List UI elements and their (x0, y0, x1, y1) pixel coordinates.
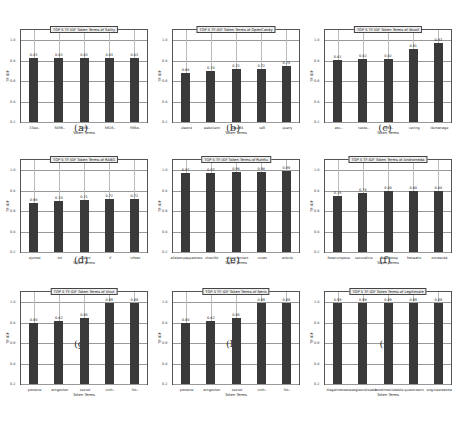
chart-title: TOP 5 TF-IDF Token Terms of Virut (51, 288, 118, 295)
bar (384, 303, 393, 384)
bar (130, 199, 139, 252)
x-axis-label: Token Terms (377, 393, 399, 397)
y-tick-label: 1.0 (10, 38, 15, 42)
bar-value-label: 0.82 (384, 54, 392, 58)
y-tick-label: 1.0 (162, 168, 167, 172)
bar-value-label: 0.72 (105, 194, 113, 198)
panel-caption: (f) (310, 254, 460, 265)
y-tick-label: 0.8 (314, 59, 319, 63)
bar (384, 59, 393, 122)
bar (29, 203, 38, 252)
bar (130, 303, 139, 384)
panel-caption: (c) (310, 122, 460, 133)
chart-grid: TOP 5 TF-IDF Token Terms of Sality0.20.4… (0, 0, 465, 421)
y-tick-label: 1.0 (314, 38, 319, 42)
panel-caption: (a) (6, 122, 156, 133)
bar (29, 323, 38, 384)
y-tick-label: 0.4 (162, 100, 167, 104)
bar-value-label: 0.99 (384, 298, 392, 302)
bar-value-label: 0.99 (435, 298, 443, 302)
bar-value-label: 0.80 (182, 318, 190, 322)
y-tick-label: 1.0 (314, 168, 319, 172)
bar (384, 191, 393, 252)
bar (282, 66, 291, 122)
bar-value-label: 0.68 (30, 198, 38, 202)
plot-area: TOP 5 TF-IDF Token Terms of Runfiu0.20.4… (172, 159, 300, 253)
bar-value-label: 0.99 (334, 298, 342, 302)
y-tick-label: 0.8 (162, 321, 167, 325)
panel-caption: (b) (158, 122, 308, 133)
chart-panel-b: TOP 5 TF-IDF Token Terms of OpenCandy0.2… (158, 20, 308, 155)
plot-area: TOP 5 TF-IDF Token Terms of RABG0.20.40.… (20, 159, 148, 253)
bar (181, 73, 190, 122)
plot-area: TOP 5 TF-IDF Token Terms of Sality0.20.4… (20, 29, 148, 123)
bar-value-label: 0.83 (30, 53, 38, 57)
bar (181, 173, 190, 252)
bar (282, 303, 291, 384)
gridline (173, 252, 299, 253)
bar-value-label: 0.99 (283, 298, 291, 302)
x-tick-label: amgosher (51, 388, 68, 392)
chart-panel-a: TOP 5 TF-IDF Token Terms of Sality0.20.4… (6, 20, 156, 155)
bar-value-label: 0.72 (232, 64, 240, 68)
x-tick-label: engineeroastte (427, 388, 453, 392)
bar (80, 318, 89, 384)
x-tick-label: eagleendiseale (351, 388, 377, 392)
y-tick-label: 0.6 (10, 209, 15, 213)
plot-area: TOP 5 TF-IDF Token Terms of Androrneda0.… (324, 159, 452, 253)
panel-caption: (e) (158, 254, 308, 265)
bar-value-label: 0.83 (131, 53, 139, 57)
bar-value-label: 0.97 (182, 168, 190, 172)
bar-value-label: 0.80 (384, 186, 392, 190)
bar (29, 58, 38, 122)
bar-value-label: 0.82 (207, 316, 215, 320)
x-tick-label: hotelmobiletable (375, 388, 404, 392)
y-tick-label: 0.6 (162, 209, 167, 213)
bar-value-label: 0.78 (359, 188, 367, 192)
bar (257, 69, 266, 122)
y-axis-label: TF-IDF (6, 200, 10, 211)
bar (54, 321, 63, 384)
y-tick-label: 0.4 (162, 362, 167, 366)
x-tick-label: postene (28, 388, 42, 392)
x-tick-label: cmh.. (257, 388, 266, 392)
bar (54, 201, 63, 252)
bar-value-label: 0.70 (55, 196, 63, 200)
chart-title: TOP 5 TF-IDF Token Terms of Legitimate (349, 288, 426, 295)
y-tick-label: 0.8 (10, 321, 15, 325)
y-tick-label: 0.4 (314, 230, 319, 234)
gridline (21, 252, 147, 253)
y-tick-label: 0.4 (10, 100, 15, 104)
bar-value-label: 0.98 (257, 167, 265, 171)
chart-title: TOP 5 TF-IDF Token Terms of Androrneda (348, 156, 427, 163)
bar-value-label: 0.99 (105, 298, 113, 302)
bar (358, 59, 367, 122)
bar (358, 193, 367, 252)
gridline (173, 384, 299, 385)
y-tick-label: 0.4 (314, 100, 319, 104)
y-axis-label: TF-IDF (310, 70, 314, 81)
bar (80, 58, 89, 122)
bar-value-label: 0.99 (359, 298, 367, 302)
bar (333, 196, 342, 252)
bar-value-label: 0.85 (80, 313, 88, 317)
chart-title: TOP 5 TF-IDF Token Terms of Neris (202, 288, 269, 295)
bar-value-label: 0.71 (80, 195, 88, 199)
bar-value-label: 0.82 (359, 54, 367, 58)
bar (206, 71, 215, 122)
bar-value-label: 0.80 (30, 318, 38, 322)
bar (333, 303, 342, 384)
x-tick-label: cmh.. (105, 388, 114, 392)
bar (333, 60, 342, 122)
bar-value-label: 0.75 (334, 191, 342, 195)
bar (206, 173, 215, 252)
bar (434, 43, 443, 122)
bar (232, 69, 241, 122)
x-tick-label: fsk.. (284, 388, 291, 392)
bar (54, 58, 63, 122)
y-tick-label: 0.6 (314, 79, 319, 83)
bar-value-label: 0.72 (131, 194, 139, 198)
x-tick-label: fsk.. (132, 388, 139, 392)
chart-panel-g: TOP 5 TF-IDF Token Terms of Virut0.20.40… (6, 282, 156, 417)
chart-title: TOP 5 TF-IDF Token Terms of Sality (50, 26, 118, 33)
